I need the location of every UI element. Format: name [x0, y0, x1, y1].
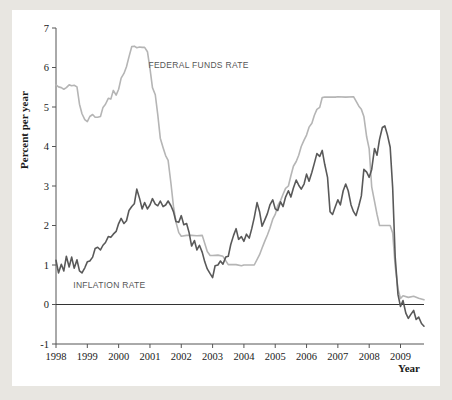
x-tick-label: 2000: [108, 351, 129, 362]
y-tick-label: 3: [44, 181, 49, 192]
axis-lines: [56, 28, 424, 344]
x-tick-label: 2006: [296, 351, 317, 362]
figure-root: -101234567199819992000200120022003200420…: [0, 0, 452, 400]
x-tick-label: 2003: [202, 351, 223, 362]
axes-group: -101234567199819992000200120022003200420…: [40, 23, 424, 362]
y-tick-label: 7: [44, 23, 49, 34]
x-tick-label: 2009: [390, 351, 411, 362]
y-tick-label: 0: [44, 299, 49, 310]
x-axis-title: Year: [398, 362, 420, 374]
series-annotation-inflation-rate: INFLATION RATE: [73, 280, 145, 290]
y-tick-label: 1: [44, 260, 49, 271]
y-tick-label: 2: [44, 220, 49, 231]
y-axis-title: Percent per year: [18, 91, 30, 169]
x-tick-label: 1999: [77, 351, 98, 362]
chart-panel: -101234567199819992000200120022003200420…: [12, 10, 440, 386]
x-tick-label: 2005: [265, 351, 286, 362]
series-annotation-federal-funds-rate: FEDERAL FUNDS RATE: [148, 60, 248, 70]
economic-rates-line-chart: -101234567199819992000200120022003200420…: [12, 10, 440, 386]
x-tick-label: 2001: [139, 351, 160, 362]
y-tick-label: 6: [44, 62, 49, 73]
series-line-inflation-rate: [56, 126, 424, 326]
annotations-group: FEDERAL FUNDS RATEINFLATION RATE: [73, 60, 249, 290]
x-tick-label: 2002: [171, 351, 192, 362]
x-tick-label: 2007: [327, 351, 348, 362]
x-tick-label: 2008: [359, 351, 380, 362]
y-tick-label: 5: [44, 102, 49, 113]
y-tick-label: 4: [44, 141, 50, 152]
y-tick-label: -1: [40, 339, 49, 350]
x-tick-label: 1998: [46, 351, 67, 362]
x-tick-label: 2004: [233, 351, 255, 362]
series-line-federal-funds-rate: [56, 46, 424, 300]
